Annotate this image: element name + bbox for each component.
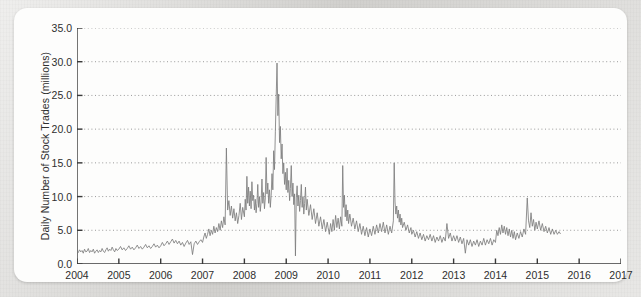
axis-tickmarks: [77, 28, 621, 264]
x-tick-label-2011: 2011: [359, 269, 382, 281]
x-tick-label-2014: 2014: [484, 269, 507, 281]
x-tick-label-2016: 2016: [567, 269, 590, 281]
x-tick-label-2009: 2009: [275, 269, 298, 281]
y-tick-label-5.0: 5.0: [57, 224, 72, 236]
x-tick-label-2007: 2007: [191, 269, 214, 281]
chart-plot-area: Daily Number of Stock Trades (millions) …: [77, 28, 621, 264]
x-tick-label-2017: 2017: [609, 269, 632, 281]
axis-frame: [77, 28, 621, 264]
y-tick-label-35.0: 35.0: [52, 22, 72, 34]
gridlines: [77, 28, 621, 230]
x-tick-label-2008: 2008: [233, 269, 256, 281]
x-tick-label-2015: 2015: [526, 269, 549, 281]
chart-svg: [77, 28, 621, 264]
x-tick-label-2005: 2005: [107, 269, 130, 281]
y-tick-label-25.0: 25.0: [52, 89, 72, 101]
x-tick-label-2010: 2010: [316, 269, 339, 281]
y-tick-label-10.0: 10.0: [52, 191, 72, 203]
x-tick-label-2012: 2012: [400, 269, 423, 281]
data-series-line: [77, 63, 560, 256]
x-tick-label-2006: 2006: [149, 269, 172, 281]
figure-card: Daily Number of Stock Trades (millions) …: [14, 8, 627, 282]
y-tick-label-15.0: 15.0: [52, 157, 72, 169]
y-tick-label-30.0: 30.0: [52, 56, 72, 68]
x-tick-label-2013: 2013: [442, 269, 465, 281]
x-tick-label-2004: 2004: [65, 269, 88, 281]
y-tick-label-20.0: 20.0: [52, 123, 72, 135]
